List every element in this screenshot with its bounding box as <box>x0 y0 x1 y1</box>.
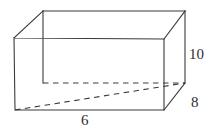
visible-edges-group <box>14 11 185 110</box>
rectangular-prism-figure: 10 8 6 <box>0 0 214 136</box>
dimension-label-height: 10 <box>189 47 204 62</box>
edge-connector-top-right <box>164 11 185 39</box>
hidden-edges-group <box>15 83 185 110</box>
front-face-rect <box>14 38 164 110</box>
dimension-label-depth: 8 <box>191 95 199 110</box>
edge-connector-bottom-right <box>164 83 185 110</box>
dimension-label-width: 6 <box>81 113 89 128</box>
prism-drawing <box>0 0 214 136</box>
hidden-edge-floor-diagonal <box>15 83 185 110</box>
edge-connector-top-left <box>14 11 43 38</box>
